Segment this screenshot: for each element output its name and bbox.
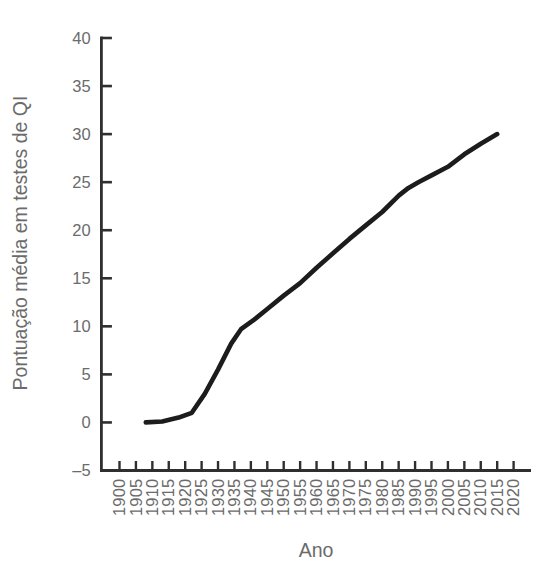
x-tick-label: 1990 [406, 479, 424, 517]
y-tick-label: 30 [72, 125, 91, 143]
iq-flynn-effect-line-chart: 1900190519101915192019251930193519401945… [0, 0, 557, 578]
x-tick-label: 1925 [192, 479, 210, 517]
y-tick-label: 20 [72, 221, 91, 239]
y-tick-label: 0 [82, 413, 91, 431]
x-tick-label: 1970 [340, 479, 358, 517]
y-tick-label: 35 [72, 77, 91, 95]
x-tick-label: 1975 [356, 479, 374, 517]
x-tick-label: 2010 [471, 479, 489, 517]
y-tick-label: 15 [72, 269, 91, 287]
x-tick-label: 1920 [176, 479, 194, 517]
x-tick-label: 1935 [225, 479, 243, 517]
x-tick-label: 1960 [307, 479, 325, 517]
iq-gain-line [146, 134, 497, 422]
x-tick-label: 1905 [127, 479, 145, 517]
data-series [146, 134, 497, 422]
x-tick-label: 2005 [455, 479, 473, 517]
x-tick-label: 1985 [389, 479, 407, 517]
x-tick-label: 1955 [291, 479, 309, 517]
x-tick-label: 1900 [110, 479, 128, 517]
x-tick-label: 1995 [422, 479, 440, 517]
y-tick-label: 25 [72, 173, 91, 191]
x-tick-label: 1940 [241, 479, 259, 517]
x-tick-label: 1950 [274, 479, 292, 517]
x-axis-ticks [120, 461, 514, 471]
y-tick-label: 5 [82, 365, 91, 383]
x-tick-label: 2015 [488, 479, 506, 517]
y-tick-label: 10 [72, 317, 91, 335]
y-axis-title: Pontuação média em testes de QI [9, 96, 31, 391]
x-tick-label: 1930 [209, 479, 227, 517]
x-tick-label: 1965 [324, 479, 342, 517]
scanned-chart-figure: 1900190519101915192019251930193519401945… [0, 0, 557, 578]
x-tick-label: 1915 [159, 479, 177, 517]
x-tick-label: 1945 [258, 479, 276, 517]
x-tick-label: 1910 [143, 479, 161, 517]
axes [100, 37, 531, 472]
y-tick-label: –5 [72, 461, 91, 479]
x-axis-title: Ano [299, 539, 334, 561]
x-axis-tick-labels: 1900190519101915192019251930193519401945… [110, 479, 522, 517]
y-tick-label: 40 [72, 29, 91, 47]
y-axis-ticks [101, 38, 112, 422]
x-tick-label: 2000 [439, 479, 457, 517]
y-axis-tick-labels: –50510152025303540 [72, 29, 91, 480]
x-tick-label: 1980 [373, 479, 391, 517]
x-tick-label: 2020 [504, 479, 522, 517]
